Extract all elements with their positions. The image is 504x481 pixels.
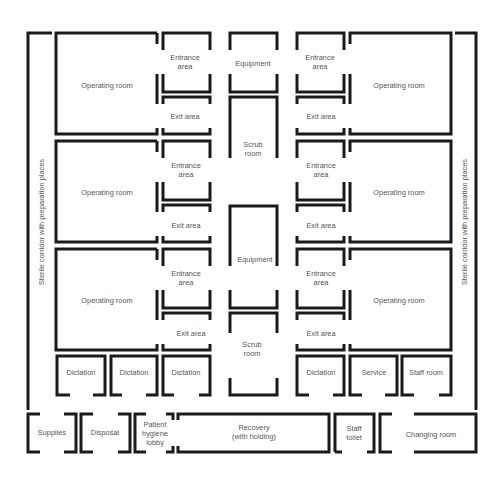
exit-left-3-label: Exit area xyxy=(176,329,205,338)
exit-right-2-label: Exit area xyxy=(306,221,335,230)
disposal-label: Disposal xyxy=(91,428,119,437)
changing-room-label: Changing room xyxy=(406,430,457,439)
exit-left-2-label: Exit area xyxy=(171,221,200,230)
left-corridor-label: Sterile corridor with preparation places xyxy=(37,159,46,285)
right-corridor-label: Sterile corridor with preparation places xyxy=(460,159,469,285)
entrance-right-3-label: Entrance area xyxy=(306,269,336,287)
equipment-2-label: Equipment xyxy=(237,255,272,264)
entrance-left-1-label: Entrance area xyxy=(170,53,200,71)
or-left-2-label: Operating room xyxy=(81,188,132,197)
or-left-3-label: Operating room xyxy=(81,296,132,305)
or-right-3-label: Operating room xyxy=(373,296,424,305)
entrance-left-3-label: Entrance area xyxy=(171,269,201,287)
scrub-room-2-label: Scrub room xyxy=(242,340,261,358)
patient-hygiene-lobby-label: Patient hygiene lobby xyxy=(142,420,168,447)
entrance-right-1-label: Entrance area xyxy=(305,53,335,71)
dictation-right-label: Dictation xyxy=(307,368,336,377)
supplies-label: Supplies xyxy=(38,428,66,437)
or-right-2-label: Operating room xyxy=(373,188,424,197)
entrance-right-2-label: Entrance area xyxy=(306,161,336,179)
equipment-1-label: Equipment xyxy=(235,59,270,68)
walls xyxy=(0,0,504,481)
dictation-left-2-label: Dictation xyxy=(120,368,149,377)
exit-right-3-label: Exit area xyxy=(306,329,335,338)
or-right-1-label: Operating room xyxy=(373,81,424,90)
scrub-room-1-label: Scrub room xyxy=(243,140,262,158)
dictation-left-1-label: Dictation xyxy=(67,368,96,377)
exit-left-1-label: Exit area xyxy=(170,112,199,121)
entrance-left-2-label: Entrance area xyxy=(171,161,201,179)
staff-toilet-label: Staff toilet xyxy=(346,424,362,442)
dictation-left-3-label: Dictation xyxy=(172,368,201,377)
recovery-label: Recovery (with holding) xyxy=(232,423,276,441)
or-left-1-label: Operating room xyxy=(81,81,132,90)
floor-plan: Sterile corridor with preparation places… xyxy=(0,0,504,481)
service-label: Service xyxy=(362,368,387,377)
exit-right-1-label: Exit area xyxy=(306,112,335,121)
staff-room-label: Staff room xyxy=(409,368,443,377)
